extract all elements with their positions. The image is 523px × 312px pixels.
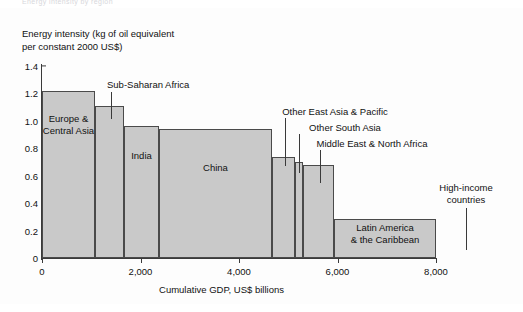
bar-5 <box>295 162 303 258</box>
x-tick-mark <box>239 258 240 263</box>
bar-label-5: Other South Asia <box>309 122 381 134</box>
x-tick-label: 2,000 <box>129 266 153 277</box>
bar-label-2-line1: India <box>131 150 152 162</box>
bar-label-1-line1: Sub-Saharan Africa <box>107 79 189 91</box>
x-tick-mark <box>141 258 142 263</box>
cut-off-header-text: Energy intensity by region <box>22 0 113 5</box>
bar-label-3: China <box>203 162 228 174</box>
leader-line-5 <box>299 134 300 173</box>
x-tick-label: 0 <box>39 266 44 277</box>
y-tick-mark <box>42 65 46 66</box>
x-tick-label: 4,000 <box>227 266 251 277</box>
bar-label-0-line2: Central Asia <box>43 125 94 137</box>
leader-line-4 <box>285 118 286 166</box>
bar-label-4-line1: Other East Asia & Pacific <box>282 106 388 118</box>
bar-label-7-line1: Latin America <box>351 222 420 234</box>
bar-6 <box>303 165 334 258</box>
bar-label-7: Latin America& the Caribbean <box>351 222 420 246</box>
y-tick-label: 0.6 <box>25 170 38 181</box>
bar-1 <box>95 106 124 258</box>
y-tick-label: 0.8 <box>25 143 38 154</box>
x-tick-mark <box>42 258 43 263</box>
x-tick-label: 8,000 <box>424 266 448 277</box>
y-tick-label: 0.2 <box>25 225 38 236</box>
bar-label-8-line2: countries <box>439 194 492 206</box>
x-axis-title: Cumulative GDP, US$ billions <box>0 284 523 295</box>
bar-label-5-line1: Other South Asia <box>309 122 381 134</box>
bar-label-7-line2: & the Caribbean <box>351 234 420 246</box>
y-axis-title: Energy intensity (kg of oil equivalent p… <box>22 28 174 53</box>
chart-figure: Energy intensity by region Energy intens… <box>0 0 523 312</box>
leader-line-6 <box>320 150 321 183</box>
x-axis-title-text: Cumulative GDP, US$ billions <box>159 284 284 295</box>
bar-label-8: High-incomecountries <box>439 182 492 206</box>
y-tick-label: 1.4 <box>25 61 38 72</box>
bar-2 <box>124 126 159 258</box>
x-tick-label: 6,000 <box>326 266 350 277</box>
x-tick-mark <box>338 258 339 263</box>
bar-label-3-line1: China <box>203 162 228 174</box>
bar-label-6: Middle East & North Africa <box>317 138 428 150</box>
y-axis-title-line1: Energy intensity (kg of oil equivalent <box>22 28 174 41</box>
leader-line-8 <box>466 208 467 250</box>
bar-3 <box>159 129 272 258</box>
bar-4 <box>272 157 295 258</box>
y-axis-title-line2: per constant 2000 US$) <box>22 41 174 54</box>
bar-label-2: India <box>131 150 152 162</box>
y-tick-label: 1.2 <box>25 88 38 99</box>
y-tick-label: 0 <box>33 253 38 264</box>
x-tick-mark <box>436 258 437 263</box>
bar-label-1: Sub-Saharan Africa <box>107 79 189 91</box>
y-tick-label: 0.4 <box>25 198 38 209</box>
bar-label-0-line1: Europe & <box>43 113 94 125</box>
bar-label-8-line1: High-income <box>439 182 492 194</box>
bar-label-4: Other East Asia & Pacific <box>282 106 388 118</box>
y-tick-label: 1.0 <box>25 115 38 126</box>
bar-label-6-line1: Middle East & North Africa <box>317 138 428 150</box>
leader-line-1 <box>111 92 112 119</box>
bar-label-0: Europe &Central Asia <box>43 113 94 137</box>
